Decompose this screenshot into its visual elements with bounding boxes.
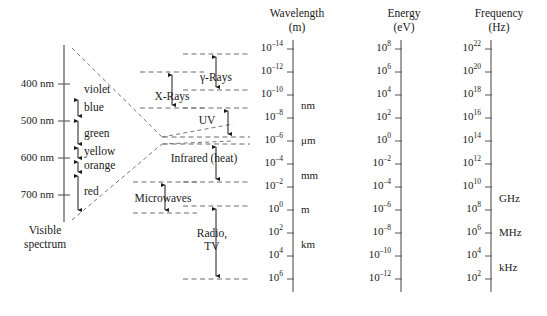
tick-label-wavelength-11: 106 <box>227 272 283 283</box>
tick-label-energy-5: 100 <box>335 134 391 145</box>
wavelength-tick-1: 400 nm <box>0 78 54 89</box>
wavelength-tick-3: 600 nm <box>0 152 54 163</box>
tick-label-energy-1: 108 <box>335 42 391 53</box>
color-label-blue: blue <box>84 102 104 114</box>
color-label-green: green <box>84 128 110 140</box>
tick-label-energy-10: 10–10 <box>335 249 391 260</box>
tick-label-frequency-3: 1018 <box>425 88 481 99</box>
wavelength-tick-4: 700 nm <box>0 189 54 200</box>
tick-label-energy-2: 106 <box>335 65 391 76</box>
tick-label-wavelength-3: 10–10 <box>227 88 283 99</box>
scale-title-frequency: Frequency <box>429 8 547 20</box>
color-label-yellow: yellow <box>84 146 115 158</box>
unit-note-wavelength-1: nm <box>301 100 345 111</box>
tick-label-energy-3: 104 <box>335 88 391 99</box>
tick-label-wavelength-2: 10–12 <box>227 65 283 76</box>
tick-label-frequency-7: 1010 <box>425 180 481 191</box>
tick-label-wavelength-4: 10–8 <box>227 111 283 122</box>
unit-note-frequency-2: MHz <box>499 227 543 238</box>
scale-unit-frequency: (Hz) <box>429 22 547 34</box>
tick-label-frequency-11: 102 <box>425 272 481 283</box>
spectrum-figure: 400 nm500 nm600 nm700 nmvioletbluegreeny… <box>0 0 547 316</box>
tick-label-energy-7: 10–4 <box>335 180 391 191</box>
tick-label-wavelength-6: 10–4 <box>227 157 283 168</box>
tick-label-wavelength-10: 104 <box>227 249 283 260</box>
color-label-orange: orange <box>84 160 115 172</box>
tick-label-wavelength-8: 100 <box>227 203 283 214</box>
unit-note-frequency-3: kHz <box>499 262 543 273</box>
tick-label-wavelength-5: 10–6 <box>227 134 283 145</box>
tick-label-energy-6: 10–2 <box>335 157 391 168</box>
tick-label-frequency-4: 1016 <box>425 111 481 122</box>
tick-label-frequency-9: 106 <box>425 226 481 237</box>
tick-label-energy-9: 10–8 <box>335 226 391 237</box>
tick-label-wavelength-9: 102 <box>227 226 283 237</box>
tick-label-frequency-10: 104 <box>425 249 481 260</box>
tick-label-frequency-8: 108 <box>425 203 481 214</box>
band-label-microwaves: Microwaves <box>83 193 243 205</box>
tick-label-wavelength-1: 10–14 <box>227 42 283 53</box>
tick-label-frequency-6: 1012 <box>425 157 481 168</box>
tick-label-wavelength-7: 10–2 <box>227 180 283 191</box>
visible-spectrum-axis <box>58 45 70 222</box>
unit-note-frequency-1: GHz <box>499 193 543 204</box>
visible-spectrum-caption: Visiblespectrum <box>8 224 82 251</box>
wavelength-tick-2: 500 nm <box>0 115 54 126</box>
tick-label-frequency-2: 1020 <box>425 65 481 76</box>
tick-label-energy-11: 10–12 <box>335 272 391 283</box>
tick-label-energy-4: 102 <box>335 111 391 122</box>
tick-label-frequency-5: 1014 <box>425 134 481 145</box>
tick-label-frequency-1: 1022 <box>425 42 481 53</box>
tick-label-energy-8: 10–6 <box>335 203 391 214</box>
